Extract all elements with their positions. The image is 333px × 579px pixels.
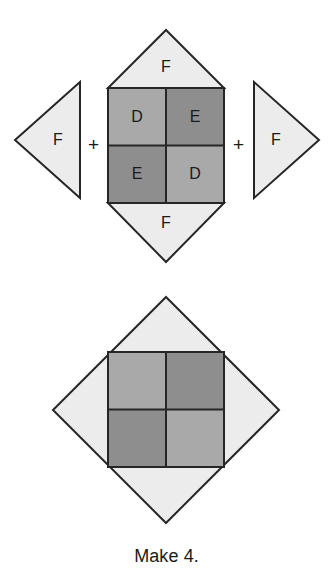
center-quadrant-top-left-label: D	[131, 108, 143, 125]
center-quadrant-top-right-label: E	[190, 108, 201, 125]
center-bottom-triangle	[108, 203, 224, 262]
center-quadrant-bottom-left-label: E	[132, 165, 143, 182]
finished-quadrant-bottom-right	[166, 410, 224, 468]
finished-quadrant-top-right	[166, 352, 224, 410]
center-bottom-triangle-label: F	[161, 214, 171, 231]
center-top-triangle-label: F	[161, 58, 171, 75]
right-triangle-label: F	[271, 131, 281, 148]
right-triangle-shape	[254, 82, 319, 198]
left-plus-operator: +	[88, 135, 99, 154]
left-triangle-shape	[15, 82, 80, 198]
finished-quadrant-bottom-left	[108, 410, 166, 468]
right-triangle-unit: F	[254, 82, 319, 198]
block-assembly-drawing: F F F D E E D F	[0, 0, 333, 579]
left-triangle-label: F	[53, 131, 63, 148]
center-unit: F F D E E D	[108, 30, 224, 262]
instruction-caption: Make 4.	[0, 546, 333, 567]
finished-quadrant-top-left	[108, 352, 166, 410]
center-quadrant-bottom-right-label: D	[189, 165, 201, 182]
quilt-block-diagram: F F F D E E D F	[0, 0, 333, 579]
left-triangle-unit: F	[15, 82, 80, 198]
right-plus-operator: +	[233, 135, 244, 154]
finished-block	[53, 297, 279, 523]
